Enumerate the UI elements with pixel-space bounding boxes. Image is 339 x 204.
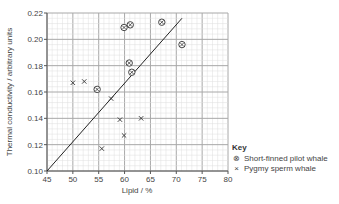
circled-x-marker [179,41,185,47]
circled-x-marker-icon: ⊗ [232,154,241,164]
x-marker-icon: × [232,164,241,174]
svg-text:50: 50 [68,175,77,184]
legend: Key ⊗ Short-finned pilot whale × Pygmy s… [232,143,328,174]
x-axis-label: Lipid / % [122,186,153,195]
legend-label: Short-finned pilot whale [244,154,328,164]
svg-text:75: 75 [198,175,207,184]
svg-text:55: 55 [94,175,103,184]
svg-text:0.18: 0.18 [27,62,43,71]
svg-text:0.14: 0.14 [27,114,43,123]
svg-text:0.12: 0.12 [27,141,43,150]
circled-x-marker [126,60,132,66]
svg-text:0.10: 0.10 [27,167,43,176]
plot-grid [47,13,228,171]
legend-label: Pygmy sperm whale [244,164,316,174]
svg-text:70: 70 [172,175,181,184]
svg-text:80: 80 [224,175,233,184]
circled-x-marker [127,22,133,28]
circled-x-marker [159,19,165,25]
svg-text:45: 45 [43,175,52,184]
circled-x-marker [121,24,127,30]
circled-x-marker [94,86,100,92]
svg-text:65: 65 [146,175,155,184]
y-axis-label: Thermal conductivity / arbitrary units [5,28,14,157]
legend-item-pilot-whale: ⊗ Short-finned pilot whale [232,154,328,164]
svg-text:60: 60 [120,175,129,184]
data-points [71,19,186,151]
svg-text:0.22: 0.22 [27,9,43,18]
circled-x-marker [129,69,135,75]
svg-text:0.16: 0.16 [27,88,43,97]
svg-text:0.20: 0.20 [27,35,43,44]
legend-item-pygmy-sperm-whale: × Pygmy sperm whale [232,164,328,174]
trend-line [47,18,182,171]
legend-title: Key [232,143,328,153]
